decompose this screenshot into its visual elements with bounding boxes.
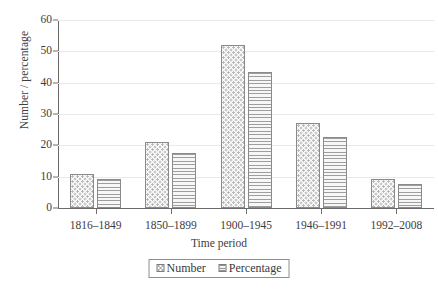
x-axis-tick-mark xyxy=(396,209,397,214)
x-axis-tick-mark xyxy=(96,209,97,214)
y-axis-tick-mark xyxy=(53,208,58,209)
legend-item-percentage: Percentage xyxy=(219,262,282,274)
bar-chart-figure: Number / percentage 0102030405060 Time p… xyxy=(0,0,438,289)
plot-area xyxy=(58,20,434,208)
x-axis-tick-mark xyxy=(246,209,247,214)
legend-label-percentage: Percentage xyxy=(229,262,282,274)
legend-item-number: Number xyxy=(157,262,206,274)
x-axis-title: Time period xyxy=(0,237,438,249)
y-axis-tick-mark xyxy=(53,176,58,177)
bar-percentage-3 xyxy=(248,72,272,208)
y-axis-tick-label: 0 xyxy=(26,202,52,214)
x-axis-tick-mark xyxy=(171,209,172,214)
legend-swatch-number-icon xyxy=(157,264,165,272)
bar-group xyxy=(221,20,272,208)
bar-group xyxy=(145,20,196,208)
y-axis-tick-label: 20 xyxy=(26,140,52,152)
y-axis-tick-mark xyxy=(53,20,58,21)
bar-percentage-5 xyxy=(398,184,422,208)
y-axis-tick-label: 60 xyxy=(26,14,52,26)
bar-percentage-1 xyxy=(97,179,121,208)
bar-percentage-2 xyxy=(172,153,196,208)
x-axis-tick-mark xyxy=(321,209,322,214)
y-axis-tick-mark xyxy=(53,51,58,52)
bar-percentage-4 xyxy=(323,137,347,208)
x-axis-tick-label: 1992–2008 xyxy=(341,219,438,231)
bar-number-5 xyxy=(371,179,395,208)
y-axis-tick-mark xyxy=(53,82,58,83)
bar-number-4 xyxy=(296,123,320,208)
bar-group xyxy=(371,20,422,208)
legend-label-number: Number xyxy=(167,262,206,274)
bar-number-3 xyxy=(221,45,245,208)
bar-number-2 xyxy=(145,142,169,208)
y-axis-tick-label: 40 xyxy=(26,77,52,89)
legend-swatch-percentage-icon xyxy=(219,264,227,272)
y-axis-tick-label: 30 xyxy=(26,108,52,120)
chart-legend: Number Percentage xyxy=(149,259,290,278)
y-axis-tick-label: 10 xyxy=(26,171,52,183)
y-axis-tick-label: 50 xyxy=(26,46,52,58)
y-axis-tick-mark xyxy=(53,145,58,146)
y-axis-tick-mark xyxy=(53,114,58,115)
bar-group xyxy=(70,20,121,208)
bar-group xyxy=(296,20,347,208)
y-axis-tick-labels: 0102030405060 xyxy=(26,14,52,208)
bar-number-1 xyxy=(70,174,94,208)
